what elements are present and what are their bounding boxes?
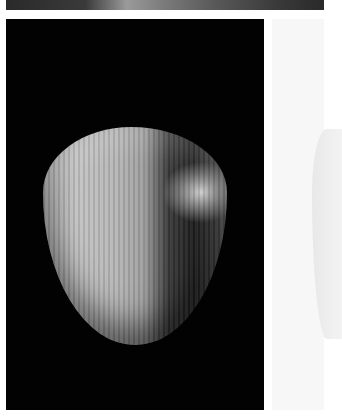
wooden-object: [43, 127, 227, 345]
top-image-strip: [6, 0, 324, 10]
ghost-object: [312, 129, 342, 339]
main-photo-panel: [6, 19, 264, 410]
faded-photo-panel: [272, 19, 324, 410]
